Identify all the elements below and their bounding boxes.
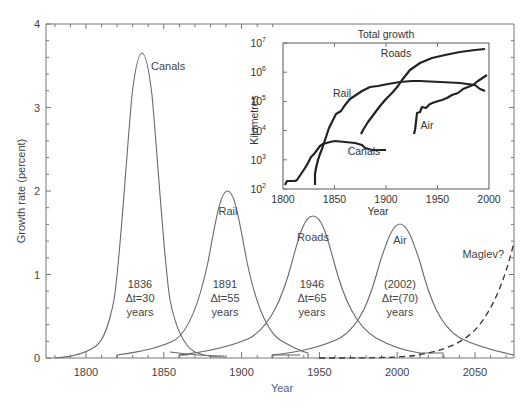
inset-air-label: Air	[421, 119, 434, 131]
roads-peak-year: 1946	[300, 278, 324, 290]
air-delta-t: Δt=(70)	[382, 292, 418, 304]
inset-x-axis-label: Year	[367, 205, 389, 217]
inset-y-axis-label: Kilometres	[248, 95, 260, 145]
x-tick-2050: 2050	[463, 366, 487, 378]
main-y-axis-label: Growth rate (percent)	[15, 139, 27, 244]
canals-peak-year: 1836	[128, 278, 152, 290]
inset-x-tick-labels: 1800 1850 1900 1950 2000	[271, 193, 501, 205]
inset-title: Total growth	[358, 28, 415, 40]
x-tick-1800: 1800	[74, 366, 98, 378]
rail-label: Rail	[219, 205, 238, 217]
y-tick-2: 2	[34, 185, 40, 197]
y-tick-3: 3	[34, 102, 40, 114]
main-x-tick-labels: 1800 1850 1900 1950 2000 2050	[74, 366, 487, 378]
main-y-tick-labels: 0 1 2 3 4	[34, 18, 40, 364]
roads-annotation: 1946 Δt=65 years	[297, 278, 326, 318]
main-x-axis-label: Year	[271, 382, 294, 394]
air-peak-year: (2002)	[384, 278, 416, 290]
inset-y-tick-1e3: 103	[250, 153, 266, 166]
x-tick-1900: 1900	[229, 366, 253, 378]
maglev-label: Maglev?	[462, 248, 504, 260]
inset-chart: 102 103 104 105 106 107 1800 1850 1900 1…	[248, 28, 501, 217]
air-label: Air	[393, 234, 407, 246]
inset-canals-label: Canals	[348, 145, 381, 157]
inset-y-tick-1e6: 106	[250, 65, 266, 78]
x-tick-1950: 1950	[307, 366, 331, 378]
air-annotation: (2002) Δt=(70) years	[382, 278, 418, 318]
x-tick-1850: 1850	[152, 366, 176, 378]
inset-y-tick-1e2: 102	[250, 182, 266, 195]
rail-curve	[117, 191, 308, 355]
y-tick-0: 0	[34, 352, 40, 364]
x-tick-2000: 2000	[385, 366, 409, 378]
inset-x-tick-1850: 1850	[323, 193, 347, 205]
rail-delta-t: Δt=55	[210, 292, 239, 304]
inset-rail-label: Rail	[333, 87, 351, 99]
roads-years: years	[299, 306, 326, 318]
y-tick-1: 1	[34, 269, 40, 281]
chart-figure: 0 1 2 3 4 1800 1850 1900 1950 2000 2050 …	[0, 0, 530, 409]
canals-years: years	[127, 306, 154, 318]
rail-annotation: 1891 Δt=55 years	[210, 278, 239, 318]
inset-x-tick-1900: 1900	[374, 193, 398, 205]
rail-peak-year: 1891	[213, 278, 237, 290]
canals-label: Canals	[151, 60, 186, 72]
air-years: years	[387, 306, 414, 318]
canals-annotation: 1836 Δt=30 years	[125, 278, 154, 318]
inset-y-tick-1e7: 107	[250, 36, 266, 49]
y-tick-4: 4	[34, 18, 40, 30]
growth-chart-svg: 0 1 2 3 4 1800 1850 1900 1950 2000 2050 …	[0, 0, 530, 409]
inset-x-tick-1800: 1800	[271, 193, 295, 205]
roads-delta-t: Δt=65	[297, 292, 326, 304]
rail-years: years	[212, 306, 239, 318]
roads-label: Roads	[297, 231, 329, 243]
inset-x-tick-1950: 1950	[426, 193, 450, 205]
inset-roads-label: Roads	[381, 47, 411, 59]
inset-x-tick-2000: 2000	[477, 193, 501, 205]
canals-delta-t: Δt=30	[125, 292, 154, 304]
